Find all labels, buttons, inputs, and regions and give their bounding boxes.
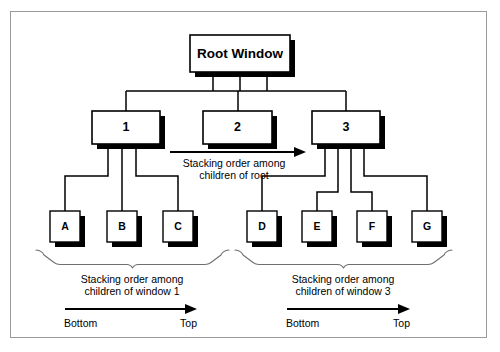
edge-3-to-G (364, 144, 427, 211)
window3-order-arrow-head (398, 304, 410, 314)
window-3-label: 3 (343, 120, 350, 134)
edge-3-to-E (317, 144, 338, 211)
node-window-G[interactable]: G (412, 211, 447, 247)
annotation-window3-stacking-order: Stacking order among children of window … (235, 250, 452, 329)
window-1-label: 1 (123, 120, 130, 134)
node-window-B[interactable]: B (107, 211, 142, 247)
node-window-C[interactable]: C (163, 211, 198, 247)
window-C-label: C (174, 220, 182, 232)
root-window-label: Root Window (197, 46, 284, 61)
window1-order-caption-line2: children of window 1 (84, 285, 179, 297)
window-hierarchy-diagram: Root Window 1 2 3 A B (0, 0, 500, 352)
node-window-F[interactable]: F (357, 211, 392, 247)
node-window-1[interactable]: 1 (92, 111, 165, 149)
window1-order-start-label: Bottom (64, 317, 98, 329)
window3-order-caption-line2: children of window 3 (295, 285, 390, 297)
node-window-3[interactable]: 3 (312, 111, 385, 149)
edge-1-to-C (136, 144, 178, 211)
root-order-caption-line2: children of root (199, 169, 269, 181)
window-A-label: A (61, 220, 69, 232)
node-window-E[interactable]: E (302, 211, 337, 247)
window-E-label: E (313, 220, 320, 232)
node-window-D[interactable]: D (247, 211, 282, 247)
window-F-label: F (369, 220, 376, 232)
edge-1-to-A (65, 144, 108, 211)
window3-order-start-label: Bottom (286, 317, 320, 329)
annotation-window1-stacking-order: Stacking order among children of window … (36, 250, 229, 329)
window3-brace (235, 250, 452, 268)
root-order-caption-line1: Stacking order among (183, 157, 286, 169)
node-root-window[interactable]: Root Window (190, 35, 295, 77)
window1-order-arrow-head (185, 304, 197, 314)
connectors-window3-to-children (262, 144, 427, 211)
connectors-root-to-level1 (126, 72, 346, 111)
window1-order-end-label: Top (180, 317, 197, 329)
node-window-A[interactable]: A (50, 211, 85, 247)
edge-3-to-D (262, 144, 325, 211)
root-order-arrow-head (294, 147, 306, 157)
window1-brace (36, 250, 229, 268)
edge-3-to-F (351, 144, 372, 211)
window-D-label: D (258, 220, 266, 232)
window-2-label: 2 (234, 120, 241, 134)
connectors-window1-to-children (65, 144, 178, 211)
window-B-label: B (118, 220, 126, 232)
window3-order-caption-line1: Stacking order among (292, 273, 395, 285)
window3-order-end-label: Top (393, 317, 410, 329)
figure-canvas: Root Window 1 2 3 A B (0, 0, 500, 352)
node-window-2[interactable]: 2 (203, 111, 277, 149)
window1-order-caption-line1: Stacking order among (81, 273, 184, 285)
window-G-label: G (423, 220, 431, 232)
